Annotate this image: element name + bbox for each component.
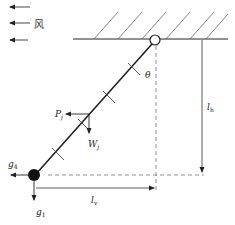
g1-label: g1 [36,207,46,218]
hatch-lines [94,12,228,39]
lv-label: lv [91,195,98,206]
hinge-icon [150,35,160,45]
diagram-canvas: 风 θ Pj [0,0,235,225]
p-label: Pj [54,109,63,121]
force-p: Pj [54,109,89,121]
theta-label: θ [145,70,151,80]
dimension-lv: lv [36,188,154,206]
lh-label: lh [207,102,214,113]
wind-arrows: 风 [10,7,44,40]
dimension-lh: lh [202,40,214,172]
wind-label: 风 [34,19,44,30]
force-w: Wj [88,114,99,151]
end-mass [28,169,40,181]
reference-dashes [48,46,204,192]
ceiling-support [73,12,228,39]
w-label: Wj [88,139,99,151]
force-g1: g1 [34,181,46,218]
g4-label: g4 [8,159,18,170]
force-g4: g4 [8,159,28,175]
rod [36,44,152,174]
